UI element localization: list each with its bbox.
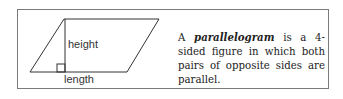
definition-prefix: A bbox=[178, 32, 185, 43]
definition-text: A parallelogram is a 4-sided figure in w… bbox=[178, 30, 325, 87]
right-angle-marker bbox=[57, 64, 65, 72]
height-label: height bbox=[68, 38, 98, 50]
definition-term: parallelogram bbox=[194, 31, 274, 43]
length-label: length bbox=[64, 73, 94, 85]
